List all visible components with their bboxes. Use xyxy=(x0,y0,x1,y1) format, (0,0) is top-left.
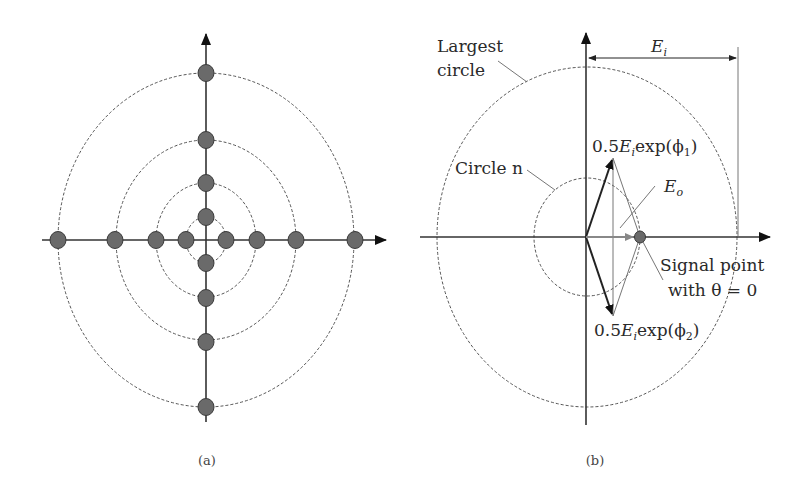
signal-point xyxy=(347,232,363,249)
signal-point-label-line1: Signal point xyxy=(660,255,764,275)
signal-point xyxy=(50,232,66,249)
signal-point-theta0 xyxy=(635,231,646,243)
signal-point xyxy=(218,232,234,249)
eo-label: Eo xyxy=(663,176,683,199)
signal-point xyxy=(198,175,214,192)
signal-point xyxy=(198,255,214,272)
caption-a: (a) xyxy=(198,453,216,468)
signal-point xyxy=(198,132,214,149)
panel-b: Ei Largest circle Circle n Eo 0.5Eiexp(ϕ… xyxy=(420,33,770,468)
caption-b: (b) xyxy=(586,453,604,468)
signal-point xyxy=(148,232,164,249)
signal-point xyxy=(288,232,304,249)
vector-phi1 xyxy=(586,160,612,237)
signal-point xyxy=(198,399,214,416)
signal-point xyxy=(249,232,265,249)
signal-point-label-line2: with θ = 0 xyxy=(668,280,757,300)
panel-a: (a) xyxy=(42,34,386,468)
figure-canvas: (a) Ei Largest circle Circle n Eo 0.5Eie… xyxy=(0,0,803,497)
circle-n-leader xyxy=(527,170,555,190)
signal-point xyxy=(107,232,123,249)
vector-phi2 xyxy=(586,237,612,314)
largest-circle-label-line2: circle xyxy=(437,60,485,80)
eo-leader xyxy=(620,186,655,228)
parallelogram-edge-2 xyxy=(613,237,640,316)
parallelogram-edge-1 xyxy=(613,158,640,237)
signal-point xyxy=(198,334,214,351)
vector-phi1-label: 0.5Eiexp(ϕ1) xyxy=(592,136,697,159)
ei-label: Ei xyxy=(650,36,667,59)
circle-n-label: Circle n xyxy=(455,158,523,178)
signal-point xyxy=(198,65,214,82)
largest-circle-leader xyxy=(498,61,527,82)
signal-point xyxy=(198,209,214,226)
vector-phi2-label: 0.5Eiexp(ϕ2) xyxy=(594,320,699,343)
signal-point xyxy=(198,290,214,307)
signal-point xyxy=(178,232,194,249)
largest-circle-label-line1: Largest xyxy=(437,36,503,56)
